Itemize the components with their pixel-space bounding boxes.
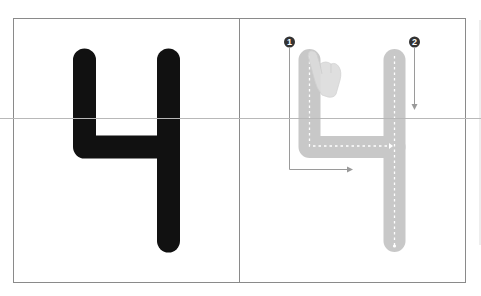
stroke-2-number: 2 bbox=[412, 37, 417, 47]
stroke-2-badge: 2 bbox=[409, 37, 420, 48]
worksheet-canvas: 1 2 bbox=[0, 0, 481, 296]
tracing-worksheet: 1 2 bbox=[0, 0, 481, 296]
stroke-1-number: 1 bbox=[287, 37, 292, 47]
stroke-1-badge: 1 bbox=[284, 37, 295, 48]
